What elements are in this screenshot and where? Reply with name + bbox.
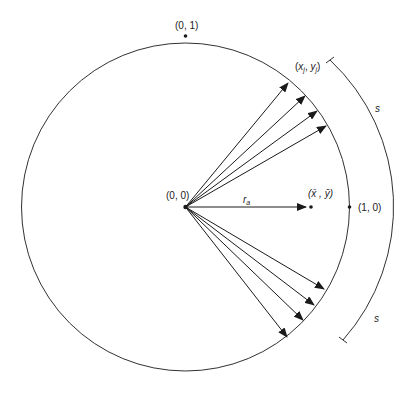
vector-arrow [186, 126, 327, 207]
circular-mean-diagram: (0, 1) (0, 0) (1, 0) (xj, yj) (x̄ , ȳ) r… [0, 0, 406, 395]
origin-point [183, 205, 187, 209]
vector-arrow [186, 111, 318, 207]
vector-arrow [186, 207, 288, 337]
label-top-point: (0, 1) [175, 20, 198, 31]
arc-s-bracket [330, 60, 394, 340]
label-right-point: (1, 0) [358, 202, 381, 213]
label-resultant-length: ra [243, 194, 250, 206]
lower-vectors [186, 207, 325, 337]
label-arc-lower: s [374, 313, 379, 324]
arc-tick-bottom [339, 337, 347, 343]
vector-arrow [186, 83, 289, 207]
label-arc-upper: s [375, 103, 380, 114]
vector-arrow [186, 207, 315, 305]
label-xj-yj: (xj, yj) [295, 61, 320, 74]
right-point [348, 205, 352, 209]
label-origin: (0, 0) [166, 190, 189, 201]
vector-arrow [186, 96, 306, 207]
mean-point [309, 205, 313, 209]
label-mean-point: (x̄ , ȳ) [308, 188, 333, 199]
top-point [184, 34, 188, 38]
upper-vectors [186, 83, 327, 207]
vector-arrow [186, 207, 304, 320]
vector-arrow [186, 207, 325, 289]
